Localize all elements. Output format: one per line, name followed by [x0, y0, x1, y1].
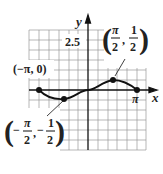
- svg-text:−: −: [13, 123, 20, 137]
- svg-text:1: 1: [131, 23, 137, 37]
- point-neg-half-pi: [61, 96, 67, 102]
- svg-text:): ): [139, 22, 149, 56]
- svg-text:2: 2: [24, 133, 30, 147]
- y-axis-arrow-icon: [86, 15, 91, 23]
- y-axis-label: y: [74, 14, 82, 29]
- svg-text:1: 1: [48, 116, 54, 130]
- x-tick-label: π: [132, 92, 139, 106]
- svg-text:,: ,: [122, 33, 125, 47]
- svg-text:2: 2: [112, 40, 118, 54]
- svg-text:−: −: [37, 123, 44, 137]
- label-neg-pi: (−π, 0): [13, 62, 46, 76]
- point-half-pi: [110, 77, 116, 83]
- svg-text:): ): [55, 114, 65, 148]
- x-axis-label: x: [151, 90, 159, 105]
- svg-text:π: π: [24, 116, 31, 130]
- svg-text:(: (: [102, 22, 112, 56]
- svg-text:π: π: [112, 23, 119, 37]
- svg-text:,: ,: [33, 126, 36, 140]
- sine-graph: y x 2.5 π (−π, 0) ( − π 2 , − 1 2 ) ( π …: [0, 0, 163, 174]
- svg-text:2: 2: [47, 133, 53, 147]
- svg-text:2: 2: [130, 40, 136, 54]
- y-tick-label: 2.5: [65, 35, 80, 49]
- point-neg-pi: [36, 87, 42, 93]
